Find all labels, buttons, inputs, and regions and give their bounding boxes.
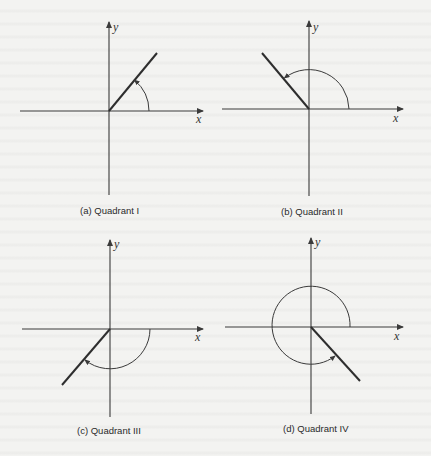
y-axis-label: y: [314, 235, 321, 249]
panel-caption: (c) Quadrant III: [77, 425, 141, 436]
panel-caption: (b) Quadrant II: [281, 206, 343, 217]
panel-quadrant-1: x y (a) Quadrant I: [20, 20, 203, 216]
angle-arc: [135, 80, 150, 111]
panel-caption: (a) Quadrant I: [80, 205, 139, 216]
quadrant-angle-figure: x y (a) Quadrant I x y (b) Quadrant II x…: [0, 0, 431, 456]
terminal-side: [262, 53, 309, 109]
x-axis-label: x: [194, 330, 201, 344]
x-axis-label: x: [195, 112, 202, 126]
y-axis-label: y: [312, 20, 319, 34]
x-axis-label: x: [392, 111, 399, 125]
panel-quadrant-2: x y (b) Quadrant II: [222, 20, 403, 217]
angle-arc: [85, 329, 150, 369]
terminal-side: [311, 327, 360, 381]
panel-quadrant-3: x y (c) Quadrant III: [22, 237, 203, 436]
terminal-side: [109, 53, 157, 111]
x-axis-label: x: [393, 329, 400, 343]
angle-arc: [285, 70, 350, 109]
y-axis-label: y: [112, 20, 119, 34]
terminal-side: [62, 329, 110, 385]
y-axis-label: y: [113, 237, 120, 251]
panel-quadrant-4: x y (d) Quadrant IV: [225, 235, 403, 434]
panel-caption: (d) Quadrant IV: [283, 423, 349, 434]
